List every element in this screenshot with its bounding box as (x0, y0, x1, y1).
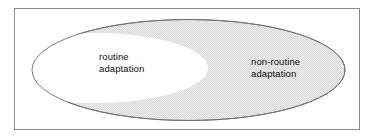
label-routine-line1: routine (99, 51, 144, 63)
diagram-canvas (0, 0, 375, 138)
label-non-routine-line2: adaptation (251, 68, 300, 80)
diagram-figure: routine adaptation non-routine adaptatio… (0, 0, 375, 138)
label-routine-adaptation: routine adaptation (99, 51, 144, 74)
label-non-routine-adaptation: non-routine adaptation (251, 56, 300, 79)
label-routine-line2: adaptation (99, 63, 144, 75)
label-non-routine-line1: non-routine (251, 56, 300, 68)
